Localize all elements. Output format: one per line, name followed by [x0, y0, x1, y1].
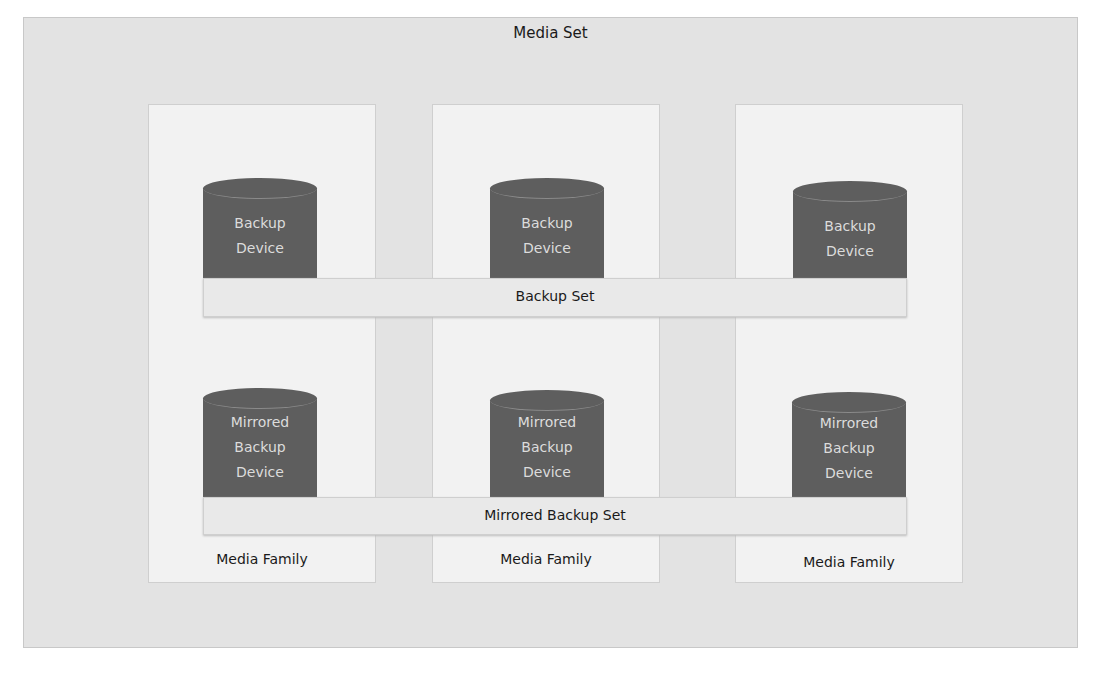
mirrored-backup-device-cylinder-3: Mirrored Backup Device: [792, 392, 906, 497]
mirrored-backup-set-label: Mirrored Backup Set: [203, 507, 907, 523]
mirrored-backup-device-cylinder-1: Mirrored Backup Device: [203, 388, 317, 497]
backup-set-label: Backup Set: [203, 288, 907, 304]
backup-device-cylinder-3: Backup Device: [793, 181, 907, 281]
media-family-label-1: Media Family: [148, 551, 376, 567]
backup-device-cylinder-1: Backup Device: [203, 178, 317, 278]
media-family-label-2: Media Family: [432, 551, 660, 567]
mirrored-backup-device-cylinder-2: Mirrored Backup Device: [490, 390, 604, 497]
media-family-label-3: Media Family: [735, 554, 963, 570]
backup-device-cylinder-2: Backup Device: [490, 178, 604, 278]
media-set-title: Media Set: [23, 24, 1078, 42]
